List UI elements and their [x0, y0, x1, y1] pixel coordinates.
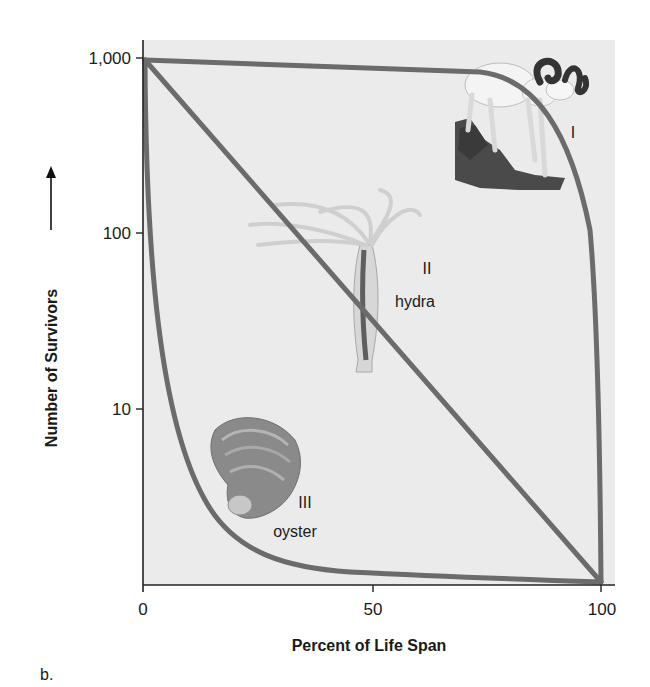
y-tick-label-10: 10 [112, 400, 131, 419]
curve-label-ii: II [423, 260, 432, 277]
organism-label-hydra: hydra [395, 293, 435, 310]
curve-label-iii: III [298, 494, 311, 511]
survivorship-chart: 1,000 100 10 0 50 100 Percent of Life Sp… [0, 0, 650, 687]
y-axis-arrow-icon [46, 166, 56, 230]
panel-label: b. [40, 666, 53, 683]
y-tick-label-1000: 1,000 [88, 49, 131, 68]
x-axis-title: Percent of Life Span [292, 637, 447, 654]
y-axis-title: Number of Survivors [43, 289, 60, 447]
curve-label-i: I [571, 124, 575, 141]
y-tick-label-100: 100 [103, 224, 131, 243]
organism-label-oyster: oyster [273, 523, 317, 540]
plot-area [143, 40, 615, 585]
x-tick-label-50: 50 [364, 600, 383, 619]
x-tick-label-0: 0 [138, 600, 147, 619]
x-tick-label-100: 100 [588, 600, 616, 619]
